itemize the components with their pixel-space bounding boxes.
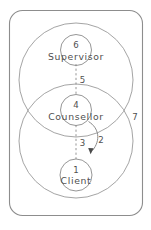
- link-label-2: 2: [98, 135, 104, 145]
- diagram-canvas: 6 Supervisor 4 Counsellor 1 Client 5 3 2…: [0, 0, 151, 230]
- arrow-head-icon: [88, 148, 93, 154]
- link-label-3: 3: [80, 138, 86, 148]
- arrow-counsellor-to-client: [89, 122, 98, 151]
- link-label-5: 5: [80, 75, 86, 85]
- supervision-model-diagram: 6 Supervisor 4 Counsellor 1 Client 5 3 2…: [0, 0, 151, 230]
- node-counsellor-label: Counsellor: [48, 111, 104, 122]
- node-client-number: 1: [73, 165, 79, 175]
- node-supervisor-label: Supervisor: [48, 51, 104, 62]
- node-supervisor-number: 6: [73, 40, 79, 50]
- node-counsellor-number: 4: [73, 100, 79, 110]
- frame-label-7: 7: [132, 112, 138, 122]
- node-client-label: Client: [61, 175, 92, 186]
